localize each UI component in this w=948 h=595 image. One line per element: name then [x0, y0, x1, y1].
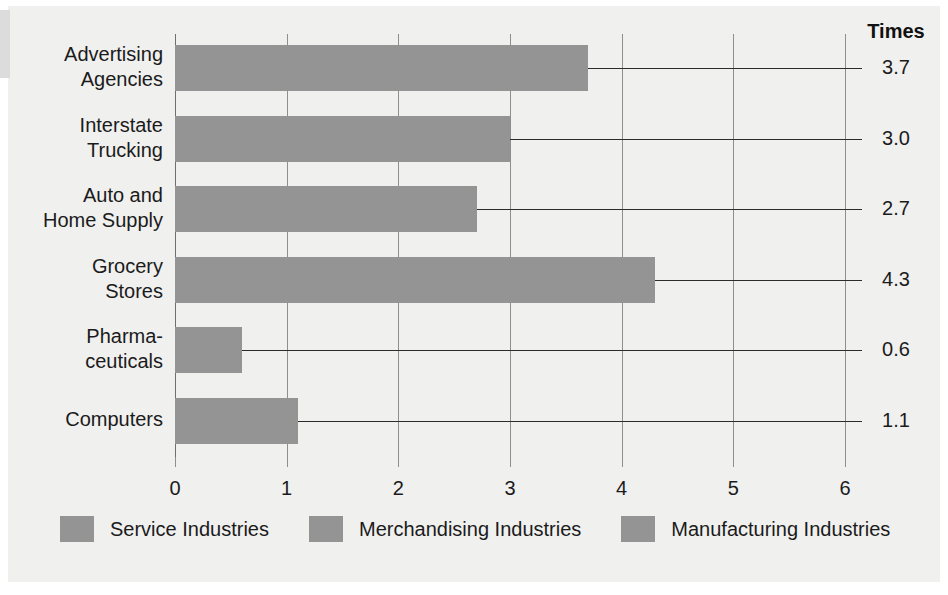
category-label: Interstate Trucking: [3, 113, 163, 163]
legend-item[interactable]: Merchandising Industries: [309, 516, 581, 542]
bar[interactable]: [175, 186, 477, 232]
legend-label: Merchandising Industries: [359, 518, 581, 541]
value-leader-line: [298, 421, 862, 422]
value-label: 3.0: [862, 127, 930, 150]
value-label: 2.7: [862, 197, 930, 220]
bar[interactable]: [175, 116, 510, 162]
value-label: 1.1: [862, 409, 930, 432]
gridline-1: [287, 34, 288, 457]
x-tick-label-4: 4: [602, 477, 642, 500]
x-tick-mark-6: [845, 457, 846, 467]
x-tick-mark-5: [733, 457, 734, 467]
legend-item[interactable]: Manufacturing Industries: [621, 516, 890, 542]
x-tick-mark-3: [510, 457, 511, 467]
plot-area: 0123456: [175, 34, 845, 457]
value-leader-line: [588, 68, 862, 69]
value-column-header: Times: [862, 20, 930, 43]
legend-swatch-icon: [309, 516, 343, 542]
value-label: 4.3: [862, 268, 930, 291]
bar[interactable]: [175, 327, 242, 373]
category-label: Grocery Stores: [3, 254, 163, 304]
legend-label: Manufacturing Industries: [671, 518, 890, 541]
x-tick-label-2: 2: [378, 477, 418, 500]
gridline-2: [398, 34, 399, 457]
value-leader-line: [510, 139, 862, 140]
gridline-4: [622, 34, 623, 457]
value-label: 3.7: [862, 56, 930, 79]
gridline-5: [733, 34, 734, 457]
category-label: Pharma- ceuticals: [3, 324, 163, 374]
bar[interactable]: [175, 257, 655, 303]
x-tick-mark-0: [175, 457, 176, 467]
bar[interactable]: [175, 398, 298, 444]
chart-page: Advertising AgenciesInterstate TruckingA…: [0, 0, 948, 595]
category-label-column: Advertising AgenciesInterstate TruckingA…: [0, 34, 163, 457]
gridline-3: [510, 34, 511, 457]
gridline-0: [175, 34, 176, 457]
legend-swatch-icon: [60, 516, 94, 542]
x-tick-mark-2: [398, 457, 399, 467]
x-tick-label-6: 6: [825, 477, 865, 500]
legend-item[interactable]: Service Industries: [60, 516, 269, 542]
legend-swatch-icon: [621, 516, 655, 542]
x-tick-mark-1: [287, 457, 288, 467]
value-label: 0.6: [862, 338, 930, 361]
category-label: Advertising Agencies: [3, 42, 163, 92]
x-tick-label-1: 1: [267, 477, 307, 500]
gridline-6: [845, 34, 846, 457]
value-leader-line: [655, 280, 862, 281]
value-leader-line: [477, 209, 863, 210]
x-tick-label-0: 0: [155, 477, 195, 500]
value-leader-line: [242, 350, 862, 351]
bar[interactable]: [175, 45, 588, 91]
x-tick-label-3: 3: [490, 477, 530, 500]
category-label: Auto and Home Supply: [3, 183, 163, 233]
category-label: Computers: [3, 407, 163, 432]
x-tick-mark-4: [622, 457, 623, 467]
legend-label: Service Industries: [110, 518, 269, 541]
chart-legend: Service IndustriesMerchandising Industri…: [60, 512, 900, 546]
x-tick-label-5: 5: [713, 477, 753, 500]
